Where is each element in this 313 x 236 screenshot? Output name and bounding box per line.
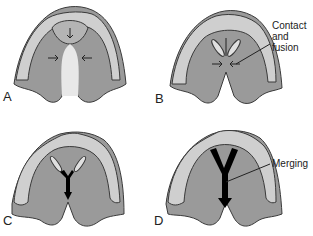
annotation-contact-fusion: Contact and fusion <box>272 20 306 53</box>
panel-d: D Merging <box>156 118 313 236</box>
panel-label-c: C <box>3 214 12 227</box>
panel-b: B Contact and fusion <box>156 0 313 118</box>
annotation-merging: Merging <box>272 158 308 169</box>
panel-label-d: D <box>154 214 163 227</box>
palate-diagram-b <box>156 0 313 118</box>
palate-diagram-d <box>156 118 313 236</box>
panel-a: A <box>0 0 156 118</box>
panel-label-a: A <box>3 90 12 103</box>
palate-diagram-a <box>0 0 156 118</box>
palate-diagram-c <box>0 118 156 236</box>
panel-c: C <box>0 118 156 236</box>
panel-label-b: B <box>155 92 164 105</box>
